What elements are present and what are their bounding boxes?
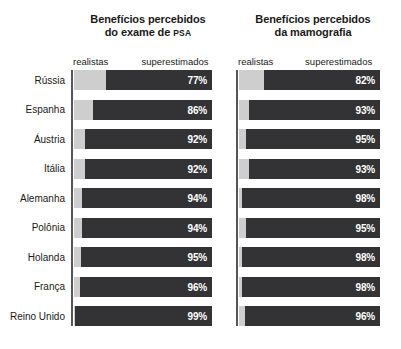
bar-value-label: 95% [356,222,375,233]
bar-segment-realistas: 95% [239,129,380,149]
panel-title-psa-line1: Benefícios percebidos [90,13,205,25]
bar-segment-realistas: 92% [74,159,212,179]
panel-title-mamografia-line2: da mamografia [238,26,388,39]
category-label: Itália [0,159,65,179]
bar-row: 94% [74,188,212,208]
panel-mamografia-plot: 82%93%95%93%98%95%98%98%96% [236,70,380,326]
bar-row: 98% [239,277,380,297]
bar-value-label: 95% [188,252,207,263]
bar-segment-realistas: 93% [239,100,380,120]
panel-title-psa-line2: do exame de PSA [78,26,218,40]
bar-segment-realistas: 98% [239,277,380,297]
category-label: Alemanha [0,188,65,208]
bar-segment-realistas: 94% [74,188,212,208]
bar-row: 95% [74,247,212,267]
category-label: Reino Unido [0,306,65,326]
legend-label-realistas: realistas [73,56,108,67]
panel-psa: realistas superestimados 77%86%92%92%94%… [71,56,212,326]
chart-figure: Benefícios percebidos do exame de PSA Be… [0,0,401,349]
bar-row: 82% [239,70,380,90]
panel-mamografia: realistas superestimados 82%93%95%93%98%… [236,56,380,326]
bar-value-label: 98% [356,281,375,292]
bar-value-label: 98% [356,252,375,263]
panel-title-mamografia-line1: Benefícios percebidos [255,13,370,25]
bar-segment-realistas: 92% [74,129,212,149]
bar-segment-realistas: 99% [74,306,212,326]
bar-value-label: 86% [188,104,207,115]
bar-value-label: 92% [188,163,207,174]
bar-value-label: 99% [188,311,207,322]
bar-row: 95% [239,218,380,238]
panel-title-psa-line2-prefix: do exame de [105,26,174,38]
bar-value-label: 95% [356,134,375,145]
bar-segment-realistas: 98% [239,247,380,267]
bar-row: 99% [74,306,212,326]
bar-row: 96% [74,277,212,297]
bar-segment-realistas: 86% [74,100,212,120]
bar-row: 93% [239,159,380,179]
panel-title-psa: Benefícios percebidos do exame de PSA [78,13,218,40]
bar-row: 95% [239,129,380,149]
bar-segment-realistas: 82% [239,70,380,90]
bar-value-label: 96% [188,281,207,292]
category-label: Holanda [0,247,65,267]
bar-value-label: 93% [356,104,375,115]
bar-row: 77% [74,70,212,90]
panel-psa-header: realistas superestimados [71,56,212,70]
category-label: França [0,277,65,297]
bar-segment-realistas: 93% [239,159,380,179]
bar-segment-realistas: 95% [74,247,212,267]
bar-value-label: 82% [356,75,375,86]
bar-value-label: 94% [188,193,207,204]
legend-label-superestimados: superestimados [305,56,372,67]
panel-mamografia-header: realistas superestimados [236,56,380,70]
bar-row: 92% [74,129,212,149]
category-label: Rússia [0,70,65,90]
bar-segment-realistas: 98% [239,188,380,208]
legend-label-realistas: realistas [238,56,273,67]
bar-row: 98% [239,188,380,208]
bar-segment-realistas: 94% [74,218,212,238]
bar-value-label: 98% [356,193,375,204]
category-label: Polônia [0,218,65,238]
bar-segment-realistas: 77% [74,70,212,90]
bar-value-label: 93% [356,163,375,174]
bar-segment-realistas: 96% [74,277,212,297]
bar-segment-realistas: 95% [239,218,380,238]
panel-title-psa-abbr: PSA [173,28,191,38]
bar-segment-realistas: 96% [239,306,380,326]
category-axis-labels: Rússia Espanha Áustria Itália Alemanha P… [0,56,65,326]
legend-label-superestimados: superestimados [142,56,209,67]
bar-row: 96% [239,306,380,326]
bar-row: 94% [74,218,212,238]
bar-value-label: 77% [188,75,207,86]
bar-row: 86% [74,100,212,120]
bar-value-label: 92% [188,134,207,145]
bar-row: 93% [239,100,380,120]
category-label: Áustria [0,129,65,149]
panel-title-mamografia: Benefícios percebidos da mamografia [238,13,388,39]
category-label: Espanha [0,100,65,120]
bar-value-label: 94% [188,222,207,233]
panel-psa-plot: 77%86%92%92%94%94%95%96%99% [71,70,212,326]
bar-value-label: 96% [356,311,375,322]
axis-label-spacer [0,56,65,70]
bar-row: 98% [239,247,380,267]
bar-row: 92% [74,159,212,179]
